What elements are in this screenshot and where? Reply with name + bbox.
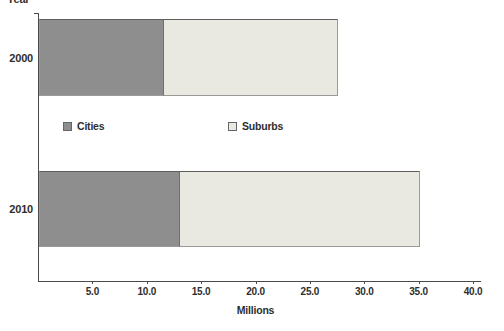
x-axis-tick-label: 30.0	[349, 286, 379, 297]
x-axis-tick-label: 25.0	[295, 286, 325, 297]
legend-item-cities: Cities	[63, 120, 104, 133]
category-label-2010: 2010	[0, 203, 33, 215]
category-label-2000: 2000	[0, 52, 33, 64]
x-axis-title: Millions	[38, 304, 473, 316]
x-axis-tick-mark	[147, 281, 148, 284]
plot-area: Cities Suburbs	[38, 13, 481, 282]
legend-label-suburbs: Suburbs	[242, 121, 283, 132]
bar-segment-cities-2010	[39, 171, 180, 247]
legend-item-suburbs: Suburbs	[228, 120, 283, 133]
x-axis-tick-mark	[419, 281, 420, 284]
bar-2000	[39, 19, 338, 96]
x-axis-tick-label: 15.0	[186, 286, 216, 297]
chart: Year Cities Suburbs 2000 2010 Millions 5…	[0, 0, 504, 331]
x-axis-tick-mark	[256, 281, 257, 284]
bar-segment-suburbs-2010	[180, 171, 419, 247]
y-axis-title-clipped: Year	[7, 0, 41, 6]
legend-swatch-suburbs	[228, 122, 237, 131]
y-axis-top-tick	[34, 13, 39, 14]
legend-label-cities: Cities	[77, 121, 104, 132]
x-axis-tick-mark	[473, 281, 474, 284]
x-axis-tick-label: 10.0	[132, 286, 162, 297]
bar-2010	[39, 171, 420, 247]
bar-segment-suburbs-2000	[164, 19, 338, 96]
y-axis-title: Year	[7, 0, 41, 5]
x-axis-tick-label: 20.0	[241, 286, 271, 297]
x-axis-tick-label: 40.0	[458, 286, 488, 297]
x-axis-tick-label: 5.0	[77, 286, 107, 297]
bar-segment-cities-2000	[39, 19, 164, 96]
x-axis-tick-mark	[201, 281, 202, 284]
x-axis-tick-mark	[364, 281, 365, 284]
x-axis-tick-label: 35.0	[404, 286, 434, 297]
x-axis-tick-mark	[310, 281, 311, 284]
x-axis-tick-mark	[92, 281, 93, 284]
legend-swatch-cities	[63, 122, 72, 131]
